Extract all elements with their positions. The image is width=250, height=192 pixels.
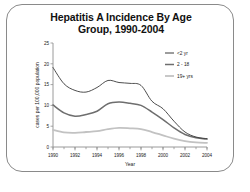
x-tick-label: 1994 — [92, 153, 103, 158]
plot-area: 0510152025 19901992199419961998200020022… — [7, 5, 235, 173]
x-axis: 19901992199419961998200020022004 — [48, 147, 213, 158]
y-tick-label: 20 — [44, 62, 50, 67]
x-tick-label: 2000 — [158, 153, 169, 158]
series-lines — [53, 68, 207, 143]
y-tick-label: 15 — [44, 82, 50, 87]
legend-label-0: <2 yr — [177, 51, 188, 56]
x-tick-label: 2004 — [202, 153, 213, 158]
series-line-2 — [53, 128, 207, 143]
x-tick-label: 1998 — [136, 153, 147, 158]
y-tick-label: 10 — [44, 103, 50, 108]
y-axis-title: cases per 100,000 population — [34, 62, 40, 128]
figure-card: Hepatitis A Incidence By Age Group, 1990… — [6, 4, 234, 172]
y-tick-label: 25 — [44, 41, 50, 46]
y-tick-label: 0 — [46, 145, 49, 150]
x-tick-label: 1996 — [114, 153, 125, 158]
line-chart: 0510152025 19901992199419961998200020022… — [7, 5, 235, 173]
y-tick-label: 5 — [46, 124, 49, 129]
x-tick-label: 2002 — [180, 153, 191, 158]
y-axis: 0510152025 — [44, 41, 53, 150]
legend-label-1: 2 - 18 — [177, 62, 190, 67]
x-axis-title: Year — [125, 161, 135, 167]
chart-legend: <2 yr2 - 1819+ yrs — [165, 51, 193, 79]
x-tick-label: 1992 — [70, 153, 81, 158]
legend-label-2: 19+ yrs — [177, 74, 193, 79]
x-tick-label: 1990 — [48, 153, 59, 158]
